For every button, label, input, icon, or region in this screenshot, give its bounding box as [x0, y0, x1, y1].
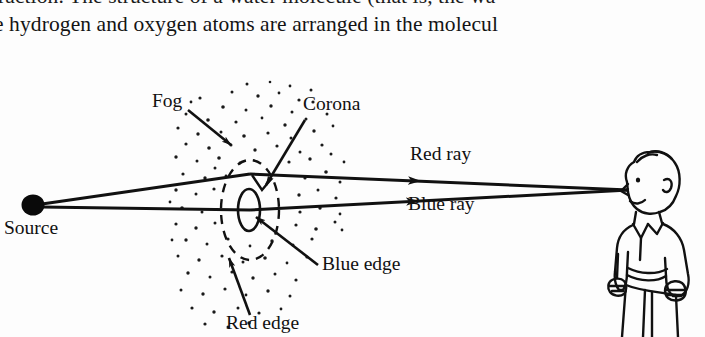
collar-right [648, 223, 663, 234]
fog-leader-line [188, 110, 231, 145]
source-dot [22, 195, 45, 216]
collar-left [633, 224, 648, 238]
red-edge-leader-line [229, 258, 250, 315]
ear [663, 179, 672, 192]
trousers-right-leg [676, 296, 678, 337]
jacket-hem-lower [627, 275, 666, 280]
label-corona: Corona [303, 93, 361, 114]
mouth [630, 200, 645, 204]
label-red-ray: Red ray [410, 143, 471, 164]
fog-dot-cloud [169, 81, 346, 329]
red-ray-to-eye [250, 174, 629, 190]
eye [636, 177, 640, 182]
label-source: Source [4, 217, 58, 238]
shirt-placket [640, 238, 641, 260]
man-observer [608, 151, 688, 337]
red-ray-path [42, 174, 250, 204]
jacket-hem [628, 268, 667, 273]
corona-fog-diagram: Source Fog Corona Red ray Blue ray Blue … [0, 62, 705, 337]
paragraph-line-clipped: raction. The structure of a water molecu… [0, 0, 495, 9]
label-blue-edge: Blue edge [322, 253, 401, 274]
blue-ray-path [42, 207, 250, 210]
label-red-edge: Red edge [226, 312, 299, 333]
trousers-left-inner [643, 290, 645, 337]
label-fog: Fog [152, 90, 183, 111]
arm-left [617, 254, 618, 278]
neck [634, 212, 636, 224]
screenshot-page: raction. The structure of a water molecu… [0, 0, 705, 337]
textbook-paragraph-excerpt: raction. The structure of a water molecu… [0, 0, 705, 62]
label-blue-ray: Blue ray [408, 193, 475, 214]
neck-back [659, 212, 662, 223]
paragraph-line-second: e hydrogen and oxygen atoms are arranged… [0, 12, 498, 37]
